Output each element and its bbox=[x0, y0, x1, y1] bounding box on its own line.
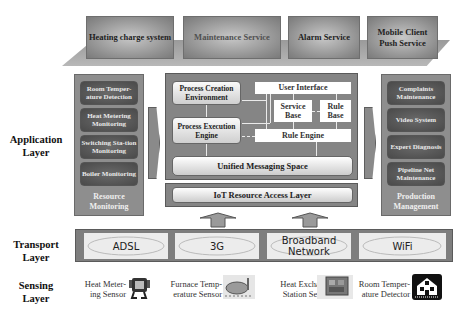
process-execution-engine: Process Execution Engine bbox=[172, 117, 241, 144]
service-alarm: Alarm Service bbox=[288, 16, 360, 59]
process-creation-environment: Process Creation Environment bbox=[172, 81, 241, 105]
left-flow-arrow-icon bbox=[148, 107, 160, 179]
network-label: ADSL bbox=[113, 241, 139, 252]
connector-line bbox=[206, 105, 207, 117]
room-temperature-detector-label: Room Temper-ature Detector bbox=[356, 279, 410, 299]
service-label: Alarm Service bbox=[298, 32, 350, 43]
boiler-monitoring: Boiler Monitoring bbox=[80, 162, 138, 186]
network-wifi: WiFi bbox=[359, 233, 446, 259]
furnace-icon bbox=[223, 275, 255, 299]
heat-metering-sensor-label: Heat Meter-ing Sensor bbox=[78, 279, 126, 299]
connector-line bbox=[316, 142, 317, 156]
connector-line bbox=[336, 94, 337, 100]
network-adsl: ADSL bbox=[84, 233, 168, 259]
furnace-temperature-sensor-label: Furnace Temp-erature Sensor bbox=[160, 279, 222, 299]
right-flow-arrow-icon bbox=[364, 107, 376, 179]
connector-line bbox=[293, 94, 294, 100]
network-label: WiFi bbox=[392, 241, 412, 252]
dashed-connector bbox=[312, 111, 320, 112]
pipeline-net-maintenance: Pipeline Net Maintenance bbox=[387, 162, 445, 186]
network-label: Broadband Network bbox=[279, 235, 339, 257]
up-arrow-icon bbox=[290, 212, 330, 228]
exchange-station-icon bbox=[317, 275, 353, 299]
sensing-layer-label: Sensing Layer bbox=[8, 279, 64, 305]
connector-line bbox=[336, 122, 337, 129]
switching-station-monitoring: Switching Sta-tion Monitoring bbox=[80, 135, 138, 159]
resource-monitoring-caption: Resource Monitoring bbox=[75, 192, 143, 211]
rule-engine-box: Rule Engine bbox=[255, 129, 351, 142]
room-temperature-detection: Room Temper-ature Detection bbox=[80, 81, 138, 105]
iot-resource-access-layer: IoT Resource Access Layer bbox=[172, 187, 353, 203]
application-core-block: Process Creation Environment Process Exe… bbox=[165, 73, 358, 180]
dashed-connector bbox=[242, 136, 255, 137]
house-icon bbox=[412, 274, 442, 300]
service-mobile-push: Mobile Client Push Service bbox=[367, 16, 438, 59]
connector-line bbox=[270, 94, 271, 123]
heat-meter-icon bbox=[127, 274, 153, 300]
transport-network-bar: ADSL 3G Broadband Network WiFi bbox=[75, 229, 453, 262]
rule-base-box: Rule Base bbox=[320, 100, 351, 122]
complaints-maintenance: Complaints Maintenance bbox=[387, 81, 445, 105]
connector-line bbox=[242, 123, 270, 124]
user-interface-box: User Interface bbox=[255, 82, 351, 94]
connector-line bbox=[206, 144, 207, 156]
expert-diagnosis: Expert Diagnosis bbox=[387, 135, 445, 159]
production-management-panel: Complaints Maintenance Video System Expe… bbox=[381, 74, 451, 216]
unified-messaging-space: Unified Messaging Space bbox=[172, 156, 353, 176]
network-label: 3G bbox=[210, 241, 224, 252]
video-system: Video System bbox=[387, 108, 445, 132]
connector-line bbox=[293, 122, 294, 129]
connector-line bbox=[242, 100, 266, 101]
production-management-caption: Production Management bbox=[382, 192, 450, 211]
iot-access-block: IoT Resource Access Layer bbox=[165, 183, 358, 207]
up-arrow-icon bbox=[198, 212, 238, 228]
service-label: Mobile Client Push Service bbox=[368, 27, 437, 49]
service-base-box: Service Base bbox=[274, 100, 312, 122]
transport-layer-label: Transport Layer bbox=[8, 238, 64, 264]
service-heating-charge: Heating charge system bbox=[86, 16, 174, 59]
resource-monitoring-panel: Room Temper-ature Detection Heat Meterin… bbox=[74, 74, 144, 216]
service-label: Maintenance Service bbox=[194, 32, 270, 43]
network-broadband: Broadband Network bbox=[267, 233, 351, 259]
service-label: Heating charge system bbox=[89, 32, 171, 43]
service-maintenance: Maintenance Service bbox=[183, 16, 281, 59]
application-layer-label: Application Layer bbox=[8, 133, 64, 159]
network-3g: 3G bbox=[175, 233, 259, 259]
heat-metering-monitoring: Heat Metering Monitoring bbox=[80, 108, 138, 132]
